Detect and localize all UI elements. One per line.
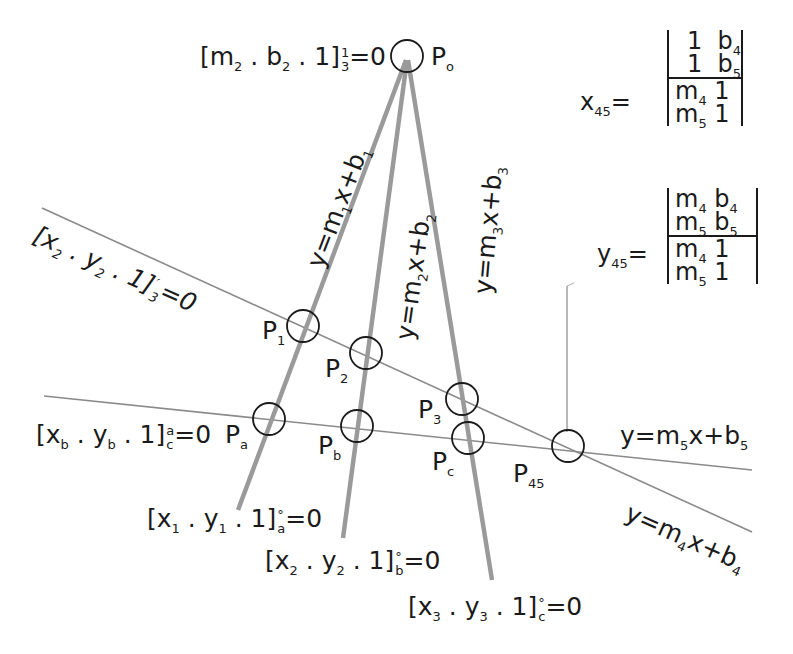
y45-fraction: m4 b4 m5 b5 m4 1 m5 1 (667, 188, 758, 284)
label-Pb: Pb (318, 433, 341, 462)
x45-den-row: m5 1 (669, 103, 741, 126)
point-circle-P45 (552, 430, 584, 462)
label-P1: P1 (262, 318, 285, 347)
eq-line3-end-bracket: [x3 . y3 . 1]°c=0 (408, 594, 582, 623)
bracket-tick (567, 283, 574, 286)
eq-apex-bracket: [m2 . b2 . 1]13=0 (200, 44, 386, 73)
y45-num-row: m5 b5 (669, 211, 756, 234)
label-Pc: Pc (432, 449, 454, 478)
eq-line-5: y=m5x+b5 (620, 423, 748, 452)
label-P3: P3 (418, 397, 441, 426)
label-P45: P45 (513, 461, 545, 490)
label-P0: Po (431, 44, 454, 73)
x45-fraction: 1 b4 1 b5 m4 1 m5 1 (667, 30, 743, 126)
label-Pa: Pa (225, 422, 248, 451)
eq-lower-line-bracket: [xb . yb . 1]ac=0 (36, 422, 211, 451)
x45-lhs: x45= (580, 88, 631, 119)
y45-lhs: y45= (597, 240, 648, 271)
label-P2: P2 (325, 356, 348, 385)
eq-line2-end-bracket: [x2 . y2 . 1]°b=0 (265, 548, 440, 577)
eq-line1-end-bracket: [x1 . y1 . 1]°a=0 (147, 506, 322, 535)
x45-num-row: 1 b5 (669, 53, 741, 76)
y45-den-row: m5 1 (669, 261, 756, 284)
